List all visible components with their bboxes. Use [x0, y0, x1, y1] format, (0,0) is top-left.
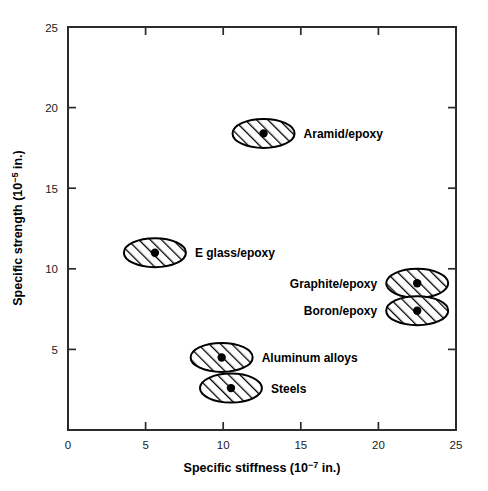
y-axis-title: Specific strength (10−5 in.): [10, 150, 26, 305]
x-tick-label-20: 20: [372, 439, 385, 451]
marker-center-dot-e-glass-epoxy: [151, 248, 159, 256]
marker-center-dot-boron-epoxy: [413, 307, 421, 315]
data-marker-aluminum-alloys: [191, 343, 253, 372]
x-axis-title: Specific stiffness (10−7 in.): [184, 460, 341, 476]
x-tick-label-15: 15: [294, 439, 307, 451]
chart-figure: 0510152025 510152025 Aramid/epoxyE glass…: [0, 0, 488, 491]
data-point-label-graphite-epoxy: Graphite/epoxy: [290, 277, 378, 291]
scatter-plot-canvas: 0510152025 510152025 Aramid/epoxyE glass…: [0, 0, 488, 491]
marker-center-dot-steels: [227, 384, 235, 392]
data-point-label-steels: Steels: [271, 382, 307, 396]
y-tick-label-5: 5: [52, 344, 58, 356]
y-axis-tick-labels: 510152025: [45, 22, 58, 356]
plot-frame: [68, 27, 456, 430]
x-tick-label-10: 10: [217, 439, 230, 451]
data-point-label-aramid-epoxy: Aramid/epoxy: [304, 127, 384, 141]
data-marker-e-glass-epoxy: [124, 238, 186, 267]
x-tick-label-5: 5: [142, 439, 148, 451]
data-marker-boron-epoxy: [386, 296, 448, 325]
data-marker-steels: [200, 374, 262, 403]
y-tick-label-25: 25: [45, 22, 58, 34]
x-tick-label-0: 0: [65, 439, 71, 451]
y-tick-label-10: 10: [45, 263, 58, 275]
x-axis-ticks: [68, 27, 456, 430]
plot-border: [68, 27, 456, 430]
marker-center-dot-aluminum-alloys: [217, 353, 225, 361]
y-tick-label-20: 20: [45, 102, 58, 114]
data-point-label-e-glass-epoxy: E glass/epoxy: [195, 246, 275, 260]
x-axis-tick-labels: 0510152025: [65, 439, 463, 451]
data-point-label-aluminum-alloys: Aluminum alloys: [262, 351, 358, 365]
data-marker-graphite-epoxy: [386, 269, 448, 298]
data-marker-aramid-epoxy: [233, 119, 295, 148]
marker-center-dot-aramid-epoxy: [259, 129, 267, 137]
data-point-label-boron-epoxy: Boron/epoxy: [304, 304, 378, 318]
x-tick-label-25: 25: [450, 439, 463, 451]
y-tick-label-15: 15: [45, 183, 58, 195]
marker-center-dot-graphite-epoxy: [413, 279, 421, 287]
